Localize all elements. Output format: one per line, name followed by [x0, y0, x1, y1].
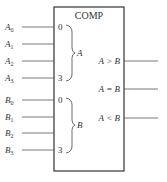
pin-a-end: 3	[58, 73, 63, 83]
comparator-diagram: COMP A0 A1 A2 A3 0 3 A B0 B1 B2 B3 0 3 B…	[0, 0, 167, 182]
group-label-a: A	[76, 48, 83, 58]
group-label-b: B	[77, 120, 83, 130]
output-label-gt: A > B	[98, 56, 121, 66]
pin-b-end: 3	[58, 145, 63, 155]
pin-b-start: 0	[58, 95, 63, 105]
input-label-b1: B1	[5, 112, 14, 123]
input-label-b0: B0	[5, 95, 14, 106]
input-label-a2: A2	[4, 56, 14, 67]
input-label-a1: A1	[4, 39, 14, 50]
input-label-b2: B2	[5, 128, 14, 139]
brace-b-icon	[66, 98, 75, 153]
output-label-eq: A = B	[98, 84, 121, 94]
brace-a-icon	[66, 25, 75, 81]
pin-a-start: 0	[58, 22, 63, 32]
input-label-a0: A0	[4, 22, 14, 33]
component-title: COMP	[75, 10, 104, 21]
input-label-a3: A3	[4, 73, 14, 84]
output-label-lt: A < B	[98, 113, 121, 123]
input-label-b3: B3	[5, 145, 14, 156]
